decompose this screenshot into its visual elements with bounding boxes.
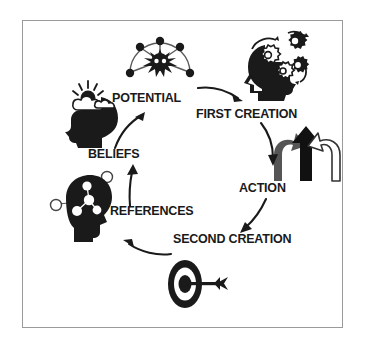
node-label-action: ACTION <box>239 182 286 195</box>
diagram-canvas: POTENTIAL <box>0 0 381 350</box>
bullseye-target-icon <box>162 258 230 310</box>
three-arrows-icon <box>272 125 342 183</box>
node-label-beliefs: BELIEFS <box>88 148 139 161</box>
node-label-references: REFERENCES <box>110 205 193 218</box>
head-with-gears-icon <box>238 27 316 105</box>
radial-burst-icon <box>124 33 196 81</box>
node-label-first-creation: FIRST CREATION <box>196 108 297 121</box>
node-label-second-creation: SECOND CREATION <box>173 233 291 246</box>
head-with-clouds-sun-icon <box>58 78 130 150</box>
